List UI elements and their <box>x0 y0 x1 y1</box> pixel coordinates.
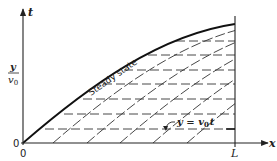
L-label: L <box>230 147 238 160</box>
steady-state-label: Steady state <box>86 56 139 97</box>
y-over-v0-label: y v0 <box>8 61 19 87</box>
diagram-canvas: t x L 0 0 y v0 Steady state y = v0t <box>0 0 277 161</box>
origin-x-label: 0 <box>20 148 26 159</box>
label-pointer-arrowhead <box>163 126 168 131</box>
x-axis-label: x <box>268 137 276 150</box>
horizontal-dashed-lines <box>45 41 235 129</box>
t-axis-label: t <box>28 6 33 19</box>
characteristic-label-text: y = v0t <box>176 116 215 129</box>
fraction-denominator: v0 <box>8 74 18 87</box>
origin-y-label: 0 <box>13 138 19 149</box>
characteristic-curves <box>53 24 277 143</box>
characteristic-curve-1 <box>53 24 265 143</box>
fraction-numerator: y <box>9 61 17 72</box>
